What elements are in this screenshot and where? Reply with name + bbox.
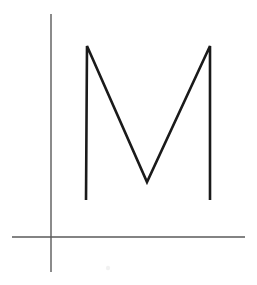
figure-canvas [0,0,257,285]
faint-smudge [106,266,110,270]
figure-svg [0,0,257,285]
